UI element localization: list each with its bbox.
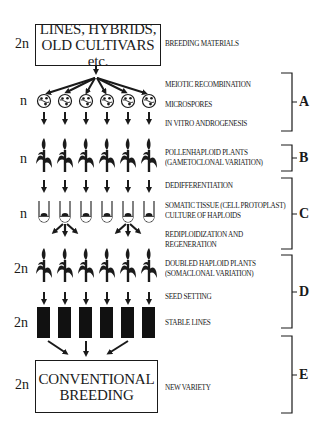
bracket-label-a: A [299,95,309,109]
black-bar-icon [37,307,50,338]
label-pollenhaploid-plants: POLLENHAPLOID PLANTS [165,148,248,158]
maize-plant-icon [99,138,115,172]
bracket-label-d: D [299,285,309,299]
black-bar-icon [100,307,113,338]
ploidy-pollen-plants: n [20,152,27,166]
arrows-converging [48,341,128,354]
ploidy-stable-lines: 2n [14,316,28,330]
label-breeding-materials: BREEDING MATERIALS [165,39,239,49]
label-rediploidization: REDIPLOIDIZATION AND [165,230,243,240]
ploidy-tubes: n [20,207,27,221]
microspore-cell-icon [80,95,93,108]
ploidy-bottom-box: 2n [15,378,29,392]
bracket-label-c: C [299,207,309,221]
test-tube-icon [81,201,91,222]
black-bar-icon [142,307,155,338]
ploidy-top-box: 2n [15,37,29,51]
label-dedifferentiation: DEDIFFERENTIATION [165,181,233,191]
doubled-haploid-plants-row [36,248,157,282]
label-culture-of-haploids: CULTURE OF HAPLOIDS [165,211,241,221]
bottom-box-line-2: BREEDING [59,387,133,403]
arrows-dedifferentiation [44,180,149,190]
ploidy-microspores: n [20,94,27,108]
maize-plant-icon [57,138,73,172]
stable-lines-row [37,307,155,338]
test-tube-icon [144,201,154,222]
test-tube-icon [102,201,112,222]
label-new-variety: NEW VARIETY [165,383,211,393]
maize-plant-icon [78,138,94,172]
label-microspores: MICROSPORES [165,100,212,110]
label-seed-setting: SEED SETTING [165,292,211,302]
brackets [281,73,297,413]
microspores-row [38,95,156,108]
pollen-plants-row [36,138,157,172]
black-bar-icon [79,307,92,338]
arrows-seed-setting [44,292,149,302]
microspore-cell-icon [38,95,51,108]
label-in-vitro-androgenesis: IN VITRO ANDROGENESIS [165,119,247,129]
conventional-breeding-box: CONVENTIONAL BREEDING [35,360,158,413]
maize-plant-icon [99,248,115,282]
maize-plant-icon [78,248,94,282]
label-stable-lines: STABLE LINES [165,318,211,328]
label-somaclonal-variation: (SOMACLONAL VARIATION) [165,269,253,279]
label-meiotic-recombination: MEIOTIC RECOMBINATION [165,80,251,90]
microspore-cell-icon [122,95,135,108]
black-bar-icon [121,307,134,338]
maize-plant-icon [36,138,52,172]
label-gametoclonal-variation: (GAMETOCLONAL VARIATION) [165,158,263,168]
microspore-cell-icon [101,95,114,108]
breeding-materials-box: LINES, HYBRIDS, OLD CULTIVARS etc. [35,24,161,66]
arrows-rediploidization [54,224,139,234]
top-box-line-1: LINES, HYBRIDS, [40,21,157,37]
test-tube-icon [39,201,49,222]
arrows-androgenesis [44,112,149,122]
maize-plant-icon [57,248,73,282]
test-tube-icon [60,201,70,222]
black-bar-icon [58,307,71,338]
maize-plant-icon [36,248,52,282]
ploidy-doubled-plants: 2n [14,262,28,276]
top-box-line-2: OLD CULTIVARS etc. [36,37,160,69]
maize-plant-icon [120,138,136,172]
test-tubes-row [39,201,154,222]
bottom-box-line-1: CONVENTIONAL [39,371,155,387]
microspore-cell-icon [59,95,72,108]
label-somatic-tissue: SOMATIC TISSUE (CELL PROTOPLAST) [165,201,285,211]
maize-plant-icon [141,248,157,282]
maize-plant-icon [120,248,136,282]
microspore-cell-icon [143,95,156,108]
label-regeneration: REGENERATION [165,240,216,250]
bracket-label-b: B [299,151,308,165]
maize-plant-icon [141,138,157,172]
bracket-label-e: E [299,368,308,382]
label-doubled-haploid-plants: DOUBLED HAPLOID PLANTS [165,259,256,269]
test-tube-icon [123,201,133,222]
